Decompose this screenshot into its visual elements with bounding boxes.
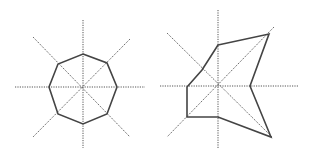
dotted-axis-line <box>167 27 274 137</box>
radar-diagram <box>0 0 310 152</box>
dotted-axis-line <box>167 33 272 137</box>
radar-plot-regular <box>15 20 145 148</box>
radar-plot-irregular <box>160 10 298 148</box>
dotted-axis-line <box>33 37 130 137</box>
